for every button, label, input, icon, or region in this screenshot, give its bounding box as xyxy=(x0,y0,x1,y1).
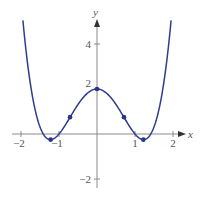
x-axis-arrowhead-icon xyxy=(178,131,186,137)
x-tick-label: 1 xyxy=(132,137,138,149)
y-tick: 4 xyxy=(86,38,101,50)
x-tick-label: 2 xyxy=(170,137,176,149)
y-tick-label: 2 xyxy=(86,77,92,89)
marked-point-icon xyxy=(68,115,73,120)
y-axis-label: y xyxy=(92,6,98,18)
y-tick-label: 4 xyxy=(86,38,92,50)
x-axis-label: x xyxy=(187,128,193,140)
y-axis-arrowhead-icon xyxy=(94,19,100,27)
marked-point-icon xyxy=(122,115,127,120)
axes: x y xyxy=(12,6,193,188)
marked-point-icon xyxy=(95,87,100,92)
marked-point-icon xyxy=(48,137,53,142)
x-tick-label: −2 xyxy=(13,137,25,149)
function-graph: x y −2−112 42−2 xyxy=(0,0,204,198)
y-tick-label: −2 xyxy=(79,173,91,185)
marked-point-icon xyxy=(141,137,146,142)
